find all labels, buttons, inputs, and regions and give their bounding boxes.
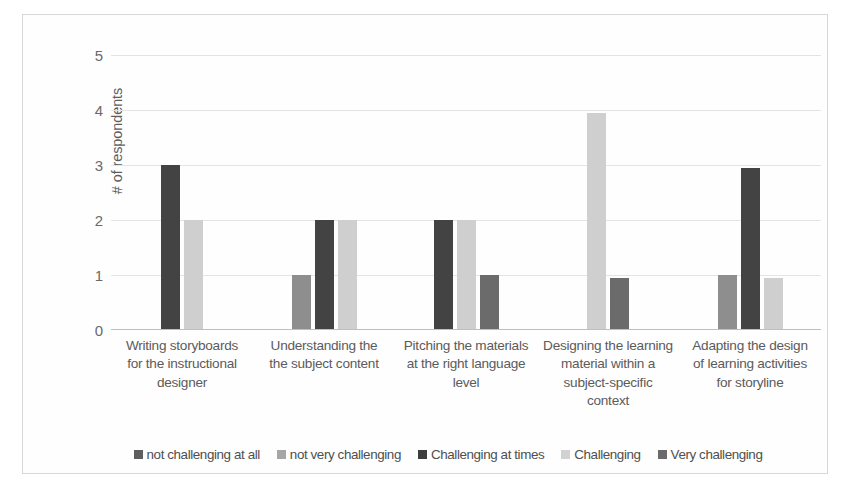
x-axis-category-labels: Writing storyboardsfor the instructional… xyxy=(111,337,821,437)
bar xyxy=(480,275,499,330)
legend-label: not challenging at all xyxy=(147,447,260,462)
chart-legend: not challenging at allnot very challengi… xyxy=(45,447,851,462)
legend-label: Very challenging xyxy=(671,447,763,462)
legend-swatch-icon xyxy=(561,450,570,459)
legend-swatch-icon xyxy=(134,450,143,459)
legend-label: Challenging xyxy=(574,447,640,462)
y-axis-ticks: 012345 xyxy=(61,55,103,330)
bar xyxy=(434,220,453,330)
legend-item[interactable]: Very challenging xyxy=(658,447,763,462)
bar xyxy=(184,220,203,330)
y-tick-label: 4 xyxy=(63,103,103,118)
legend-label: not very challenging xyxy=(290,447,401,462)
legend-swatch-icon xyxy=(658,450,667,459)
legend-swatch-icon xyxy=(418,450,427,459)
x-axis-label: Designing the learningmaterial within as… xyxy=(531,337,685,410)
chart-frame: # of respondents 012345 Writing storyboa… xyxy=(22,14,828,474)
x-axis-label: Writing storyboardsfor the instructional… xyxy=(105,337,259,392)
x-axis-label: Pitching the materialsat the right langu… xyxy=(389,337,543,392)
y-tick-label: 5 xyxy=(63,48,103,63)
plot-area xyxy=(111,55,821,330)
legend-item[interactable]: Challenging at times xyxy=(418,447,544,462)
legend-label: Challenging at times xyxy=(431,447,544,462)
bar xyxy=(457,220,476,330)
gridline-3 xyxy=(111,165,821,166)
bar xyxy=(315,220,334,330)
legend-item[interactable]: not very challenging xyxy=(277,447,401,462)
bar xyxy=(718,275,737,330)
bar xyxy=(764,278,783,330)
bar xyxy=(338,220,357,330)
x-axis-label: Adapting the designof learning activitie… xyxy=(673,337,827,392)
bar xyxy=(161,165,180,330)
y-tick-label: 0 xyxy=(63,323,103,338)
legend-item[interactable]: not challenging at all xyxy=(134,447,260,462)
gridline-4 xyxy=(111,110,821,111)
y-tick-label: 1 xyxy=(63,268,103,283)
bar xyxy=(741,168,760,330)
chart-figure: # of respondents 012345 Writing storyboa… xyxy=(0,0,851,492)
legend-item[interactable]: Challenging xyxy=(561,447,640,462)
x-axis-label: Understanding thethe subject content xyxy=(247,337,401,374)
y-tick-label: 2 xyxy=(63,213,103,228)
bar xyxy=(587,113,606,330)
gridline-5 xyxy=(111,55,821,56)
axis-baseline xyxy=(111,329,821,330)
bar xyxy=(292,275,311,330)
y-tick-label: 3 xyxy=(63,158,103,173)
bar xyxy=(610,278,629,330)
legend-swatch-icon xyxy=(277,450,286,459)
